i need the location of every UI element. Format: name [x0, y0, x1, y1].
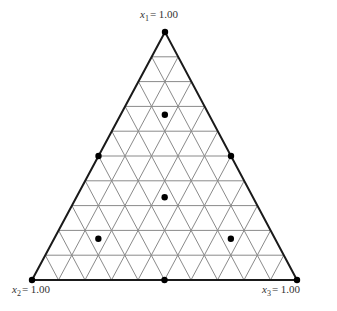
- design-point: [161, 277, 167, 283]
- grid-line: [271, 255, 284, 280]
- ternary-diagram: x1= 1.00 x2= 1.00 x3= 1.00: [0, 0, 337, 311]
- grid-line: [45, 255, 58, 280]
- triangular-grid: [45, 57, 283, 280]
- grid-line: [99, 156, 165, 280]
- grid-line: [112, 106, 205, 280]
- design-point: [228, 153, 234, 159]
- design-point: [162, 111, 168, 117]
- vertex-label-x2: x2= 1.00: [11, 283, 51, 298]
- design-point: [228, 235, 234, 241]
- grid-line: [218, 206, 258, 280]
- design-point: [95, 153, 101, 159]
- grid-line: [152, 57, 271, 280]
- design-point: [95, 235, 101, 241]
- grid-line: [72, 206, 112, 280]
- grid-line: [165, 156, 232, 280]
- design-point: [161, 194, 167, 200]
- vertex-label-x3: x3= 1.00: [261, 283, 301, 298]
- vertex-label-x1: x1= 1.00: [139, 8, 179, 23]
- design-point: [162, 29, 168, 35]
- grid-line: [59, 57, 179, 280]
- grid-line: [125, 106, 217, 280]
